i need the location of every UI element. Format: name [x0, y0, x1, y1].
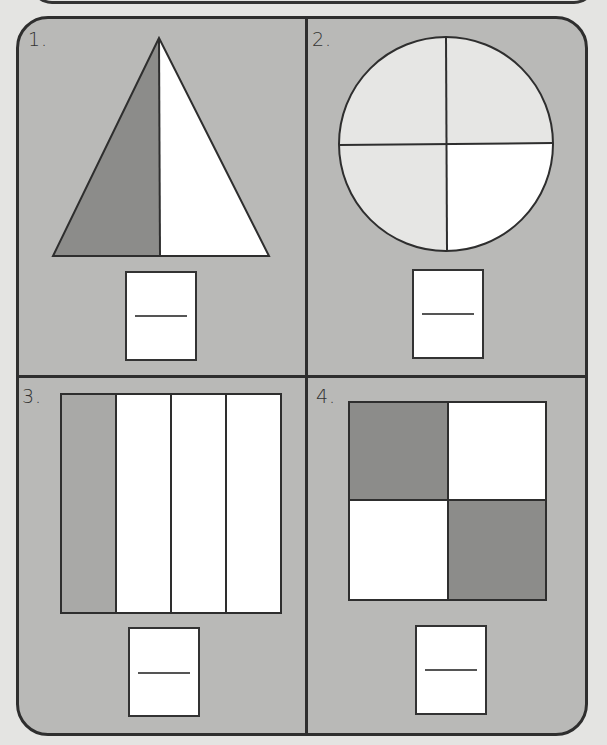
circle-quarter-top-right	[446, 37, 553, 144]
answer-box-3[interactable]	[128, 627, 200, 717]
answer-box-2[interactable]	[412, 269, 484, 359]
circle-quarter-bottom-right	[446, 144, 553, 251]
answer-box-1[interactable]	[125, 271, 197, 361]
square-figure	[349, 402, 546, 600]
fraction-bar	[422, 313, 474, 315]
circle-quarter-bottom-left	[339, 144, 446, 251]
square-shaded-bottom-right	[448, 500, 546, 600]
fraction-bar	[135, 315, 187, 317]
fraction-figures	[0, 0, 607, 745]
rectangle-shaded-part	[61, 394, 116, 613]
triangle-figure	[53, 38, 269, 256]
fraction-bar	[138, 672, 190, 674]
answer-box-4[interactable]	[415, 625, 487, 715]
circle-quarter-top-left	[339, 37, 446, 144]
rectangle-figure	[61, 394, 281, 613]
square-shaded-top-left	[349, 402, 448, 500]
circle-figure	[339, 37, 553, 251]
fraction-bar	[425, 669, 477, 671]
